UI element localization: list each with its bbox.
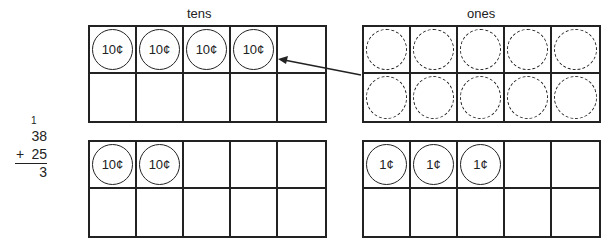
dime-coin: 10¢ [139,29,180,70]
ones-bottom-cell [505,189,552,236]
addend-2: 25 [20,146,47,162]
ones-top-cell [552,27,599,74]
tens-label: tens [187,6,212,21]
ones-top-cell [411,27,458,74]
ones-top-cell [552,74,599,121]
addend-1: 38 [20,128,47,144]
ones-top-cell [458,27,505,74]
ones-frame-bottom: 1¢ 1¢ 1¢ [362,140,601,238]
dashed-circle [554,29,597,70]
ones-top-cell [364,27,411,74]
penny-coin: 1¢ [366,144,407,185]
carry-digit: 1 [31,115,37,126]
ones-bottom-cell [364,189,411,236]
dashed-circle [507,29,548,70]
tens-top-cell [137,74,184,121]
tens-bottom-cell [137,189,184,236]
dime-coin: 10¢ [186,29,227,70]
ones-bottom-cell [552,189,599,236]
dime-coin: 10¢ [139,144,180,185]
tens-bottom-cell [231,142,278,189]
ones-top-cell [505,27,552,74]
partial-result: 3 [20,164,47,180]
tens-top-cell [278,74,325,121]
ones-top-cell [411,74,458,121]
dashed-circle [366,29,407,70]
tens-top-cell: 10¢ [90,27,137,74]
tens-frame-top: 10¢ 10¢ 10¢ 10¢ [88,25,327,123]
ones-frame-top [362,25,601,123]
tens-top-cell: 10¢ [137,27,184,74]
ones-bottom-cell: 1¢ [411,142,458,189]
tens-top-cell: 10¢ [184,27,231,74]
tens-bottom-cell: 10¢ [90,142,137,189]
dashed-circle [460,29,501,70]
tens-top-cell [231,74,278,121]
ones-bottom-cell: 1¢ [364,142,411,189]
dashed-circle [366,76,407,119]
dime-coin: 10¢ [92,29,133,70]
dime-coin: 10¢ [92,144,133,185]
ones-bottom-cell [552,142,599,189]
dashed-circle [507,76,548,119]
tens-bottom-cell [278,142,325,189]
tens-top-cell: 10¢ [231,27,278,74]
tens-bottom-cell [184,142,231,189]
dashed-circle [413,76,454,119]
tens-top-cell [278,27,325,74]
ones-top-cell [458,74,505,121]
dashed-circle [413,29,454,70]
penny-coin: 1¢ [460,144,501,185]
ones-top-cell [364,74,411,121]
ones-label: ones [467,6,495,21]
ones-bottom-cell: 1¢ [458,142,505,189]
tens-top-cell [90,74,137,121]
ones-bottom-cell [458,189,505,236]
ones-top-cell [505,74,552,121]
dashed-circle [460,76,501,119]
ones-bottom-cell [411,189,458,236]
tens-bottom-cell: 10¢ [137,142,184,189]
tens-top-cell [184,74,231,121]
penny-coin: 1¢ [413,144,454,185]
ones-bottom-cell [505,142,552,189]
dashed-circle [554,76,597,119]
tens-bottom-cell [184,189,231,236]
tens-bottom-cell [231,189,278,236]
tens-bottom-cell [90,189,137,236]
tens-bottom-cell [278,189,325,236]
dime-coin: 10¢ [233,29,274,70]
tens-frame-bottom: 10¢ 10¢ [88,140,327,238]
